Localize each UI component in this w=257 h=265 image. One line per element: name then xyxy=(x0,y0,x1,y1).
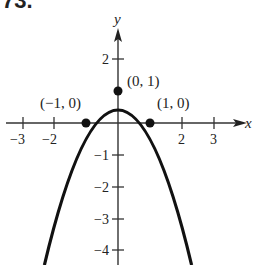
point-0-1 xyxy=(114,87,123,96)
point-label: (−1, 0) xyxy=(40,95,81,112)
point-1-0 xyxy=(146,119,155,128)
y-tick-label: −1 xyxy=(94,148,109,163)
point-label: (0, 1) xyxy=(127,73,160,90)
point-label: (1, 0) xyxy=(157,95,190,112)
x-tick-label: −3 xyxy=(10,132,25,147)
x-tick-labels: −3 −2 2 3 xyxy=(10,132,217,147)
x-tick-label: 2 xyxy=(178,132,185,147)
y-axis-label: y xyxy=(112,11,121,27)
problem-number: 73. xyxy=(2,0,33,13)
y-tick-label: −3 xyxy=(94,212,109,227)
y-tick-label: −4 xyxy=(94,243,109,258)
y-tick-label: 2 xyxy=(102,52,109,67)
x-tick-label: −2 xyxy=(42,132,57,147)
y-tick-label: −2 xyxy=(94,180,109,195)
x-tick-label: 3 xyxy=(210,132,217,147)
y-axis: y xyxy=(112,11,122,265)
point-neg1-0 xyxy=(82,119,91,128)
x-axis-label: x xyxy=(244,115,252,131)
y-tick-labels: 2 −1 −2 −3 −4 xyxy=(94,52,109,258)
parabola-graph-figure: 73. x y −3 −2 2 3 xyxy=(0,0,257,265)
x-axis: x xyxy=(6,115,252,131)
